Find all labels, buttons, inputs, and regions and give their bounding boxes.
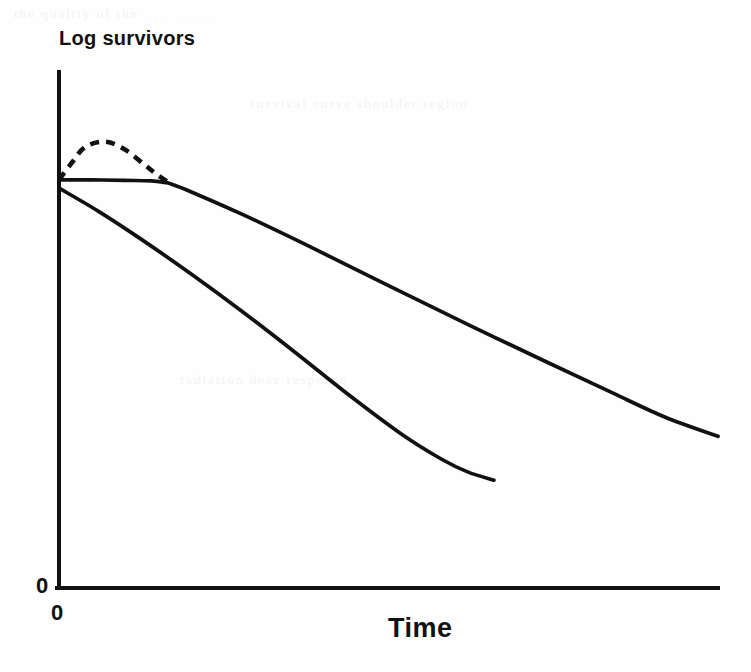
y-axis-zero-tick-label: 0 [36,573,48,599]
figure-root: the quality of the . . . . . . . surviva… [0,0,751,672]
x-axis-zero-tick-label: 0 [51,600,63,626]
upper-curve-overlay [0,0,751,672]
y-axis-title: Log survivors [59,27,195,50]
x-axis-title: Time [388,613,453,644]
